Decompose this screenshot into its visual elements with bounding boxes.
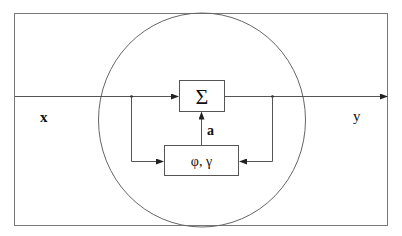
right-feedback-line	[240, 97, 273, 162]
control-signal-label: a	[207, 123, 214, 138]
sum-block: Σ	[180, 81, 225, 112]
input-label: x	[40, 109, 48, 125]
output-label: y	[353, 108, 361, 124]
left-feedforward-line	[132, 97, 164, 162]
sum-symbol: Σ	[196, 84, 209, 109]
block-diagram: Σ a φ, γ x y	[0, 0, 402, 236]
param-block-label: φ, γ	[191, 154, 212, 169]
param-block: φ, γ	[165, 146, 239, 176]
